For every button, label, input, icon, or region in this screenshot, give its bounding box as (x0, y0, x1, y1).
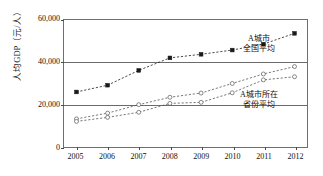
data-point-marker-circle (137, 110, 141, 114)
data-point-marker-square (75, 90, 79, 94)
data-point-marker-circle (230, 82, 234, 86)
annotation-line-1: A城市 (243, 34, 275, 44)
annotation-line-2: 省份平均 (240, 100, 278, 110)
data-point-marker-circle (168, 95, 172, 99)
y-tick-label: 20,000 (16, 101, 60, 109)
data-point-marker-circle (261, 78, 265, 82)
data-point-marker-circle (168, 101, 172, 105)
data-point-marker-square (230, 48, 234, 52)
x-tick-mark (265, 147, 266, 150)
y-tick-label: 60,000 (16, 15, 60, 23)
data-point-marker-circle (230, 91, 234, 95)
data-point-marker-square (199, 52, 203, 56)
x-tick-mark (202, 147, 203, 150)
data-point-marker-square (137, 69, 141, 73)
annotation-line-1: A城市所在 (240, 90, 278, 100)
x-tick-mark (296, 147, 297, 150)
y-axis-tick-labels: 60,000 40,000 20,000 0 (14, 0, 60, 176)
annotation-province-avg: A城市所在 省份平均 (240, 90, 278, 110)
x-tick-mark (77, 147, 78, 150)
data-point-marker-circle (199, 91, 203, 95)
data-point-marker-square (106, 83, 110, 87)
annotation-line-2: 全国平均 (243, 44, 275, 54)
data-point-marker-circle (137, 103, 141, 107)
x-tick-mark (108, 147, 109, 150)
x-tick-mark (139, 147, 140, 150)
x-tick-label: 2012 (275, 152, 315, 161)
y-tick-label: 40,000 (16, 58, 60, 66)
x-tick-mark (171, 147, 172, 150)
data-point-marker-circle (199, 100, 203, 104)
annotation-city-national: A城市 全国平均 (243, 34, 275, 54)
data-point-marker-square (168, 56, 172, 60)
data-point-marker-circle (106, 115, 110, 119)
data-point-marker-circle (106, 111, 110, 115)
data-point-marker-circle (261, 72, 265, 76)
data-point-marker-square (293, 31, 297, 35)
data-point-marker-circle (74, 119, 78, 123)
data-point-marker-circle (293, 75, 297, 79)
x-tick-mark (234, 147, 235, 150)
data-point-marker-circle (293, 65, 297, 69)
chart-container: 人均GDP（元/人） 60,000 40,000 20,000 0 200520… (0, 0, 323, 176)
y-tick-mark (61, 148, 64, 149)
y-tick-label: 0 (16, 144, 60, 152)
